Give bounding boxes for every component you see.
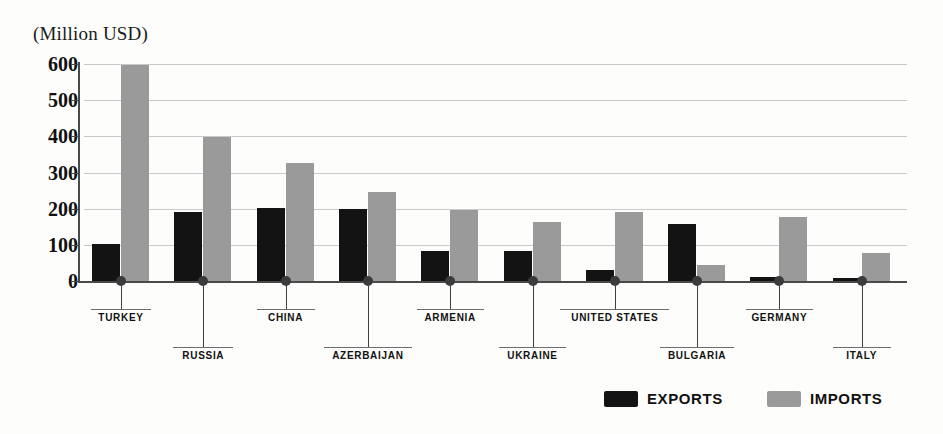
bar-exports (339, 209, 367, 281)
label-underline (833, 347, 891, 348)
y-axis-labels: 6005004003002001000 (0, 64, 78, 284)
label-underline (324, 347, 412, 348)
category-label-turkey: TURKEY (91, 312, 151, 323)
label-leader-line (697, 281, 698, 347)
y-tick-600 (72, 64, 80, 65)
label-underline (746, 309, 813, 310)
y-tick-100 (72, 245, 80, 246)
category-label-armenia: ARMENIA (417, 312, 484, 323)
bar-group (92, 64, 149, 281)
bar-imports (368, 192, 396, 281)
label-underline (499, 347, 566, 348)
bar-imports (121, 65, 149, 281)
label-leader-line (121, 281, 122, 309)
bar-exports (257, 208, 285, 281)
bar-chart: (Million USD) 6005004003002001000 TURKEY… (0, 0, 943, 434)
label-leader-line (450, 281, 451, 309)
bar-imports (286, 163, 314, 281)
legend-item-imports[interactable]: IMPORTS (767, 390, 883, 407)
bar-imports (450, 210, 478, 281)
chart-axis-title: (Million USD) (33, 23, 148, 45)
bar-imports (615, 212, 643, 281)
bar-exports (174, 212, 202, 281)
bar-imports (533, 222, 561, 281)
category-label-azerbaijan: AZERBAIJAN (324, 350, 412, 361)
legend-swatch-exports (604, 391, 638, 407)
bar-group (668, 64, 725, 281)
y-axis-tick-label: 500 (12, 89, 78, 112)
bar-exports (92, 244, 120, 281)
bar-imports (203, 137, 231, 281)
legend-label: IMPORTS (810, 390, 883, 407)
label-underline (173, 347, 233, 348)
category-label-bulgaria: BULGARIA (660, 350, 734, 361)
label-underline (560, 309, 669, 310)
y-axis-tick-label: 200 (12, 198, 78, 221)
label-leader-line (615, 281, 616, 309)
category-label-italy: ITALY (833, 350, 891, 361)
bar-group (257, 64, 314, 281)
legend-label: EXPORTS (647, 390, 723, 407)
label-leader-line (203, 281, 204, 347)
label-underline (417, 309, 484, 310)
bar-exports (421, 251, 449, 281)
bar-group (833, 64, 890, 281)
y-axis-tick-label: 100 (12, 234, 78, 257)
label-leader-line (368, 281, 369, 347)
chart-legend: EXPORTSIMPORTS (604, 390, 882, 407)
plot-area (84, 64, 907, 281)
bar-group (339, 64, 396, 281)
label-leader-line (533, 281, 534, 347)
y-axis-tick-label: 300 (12, 162, 78, 185)
category-label-united-states: UNITED STATES (560, 312, 669, 323)
legend-item-exports[interactable]: EXPORTS (604, 390, 723, 407)
label-underline (257, 309, 315, 310)
y-axis-tick-label: 400 (12, 125, 78, 148)
bar-group (586, 64, 643, 281)
label-leader-line (286, 281, 287, 309)
bar-imports (779, 217, 807, 281)
category-label-china: CHINA (257, 312, 315, 323)
category-label-ukraine: UKRAINE (499, 350, 566, 361)
legend-swatch-imports (767, 391, 801, 407)
y-axis-tick-label: 600 (12, 53, 78, 76)
label-leader-line (779, 281, 780, 309)
bar-group (504, 64, 561, 281)
y-axis-tick-label: 0 (12, 270, 78, 293)
category-label-russia: RUSSIA (173, 350, 233, 361)
bar-group (174, 64, 231, 281)
label-underline (660, 347, 734, 348)
y-tick-300 (72, 173, 80, 174)
bar-exports (504, 251, 532, 281)
bar-exports (668, 224, 696, 282)
label-leader-line (862, 281, 863, 347)
y-tick-0 (72, 281, 80, 282)
y-tick-200 (72, 209, 80, 210)
bar-group (750, 64, 807, 281)
label-underline (91, 309, 151, 310)
bar-group (421, 64, 478, 281)
bar-imports (862, 253, 890, 281)
y-tick-400 (72, 136, 80, 137)
y-tick-500 (72, 100, 80, 101)
category-label-germany: GERMANY (746, 312, 813, 323)
